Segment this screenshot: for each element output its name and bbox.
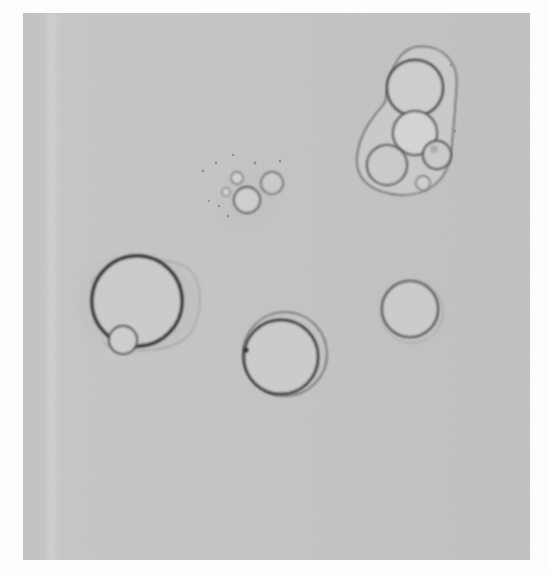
cluster-granule xyxy=(430,145,438,153)
page xyxy=(0,0,548,574)
vesicle-inner-ring xyxy=(244,320,318,394)
speck xyxy=(232,154,234,156)
micrograph-canvas xyxy=(23,13,530,560)
bubble-right xyxy=(261,172,283,194)
vesicle-satellite xyxy=(109,326,137,354)
cluster-vesicle-bottom-left xyxy=(367,145,407,185)
vesicle-large xyxy=(92,256,182,346)
bubble-main xyxy=(234,187,260,213)
speck xyxy=(215,162,217,164)
bubble-left xyxy=(222,188,230,196)
cluster-speck xyxy=(450,64,453,67)
micrograph-photo xyxy=(23,13,530,560)
vesicle-dark-spot xyxy=(244,348,249,353)
cluster-vesicle-bottom-right xyxy=(423,141,451,169)
cluster-vesicle-tiny xyxy=(416,176,430,190)
speck xyxy=(254,162,257,165)
cluster-speck xyxy=(454,130,457,133)
speck xyxy=(227,215,229,217)
speck xyxy=(218,205,220,207)
speck xyxy=(208,200,210,202)
cluster-vesicle-top xyxy=(387,60,443,116)
single-vesicle xyxy=(376,276,444,344)
bubble-top xyxy=(231,172,243,184)
speck xyxy=(202,170,205,173)
speck xyxy=(279,160,282,163)
double-ring-vesicle xyxy=(243,312,327,396)
